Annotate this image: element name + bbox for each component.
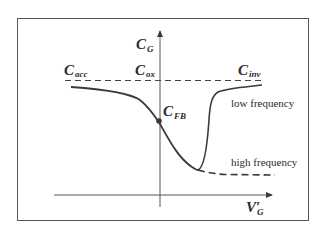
svg-text:G: G bbox=[147, 44, 154, 54]
svg-text:inv: inv bbox=[249, 69, 262, 79]
c-inv-label: C inv bbox=[238, 62, 262, 79]
cv-diagram: C G C acc C ox C inv C FB low frequency … bbox=[0, 0, 322, 231]
high-frequency-curve bbox=[198, 170, 275, 175]
figure-frame bbox=[18, 19, 309, 221]
svg-text:C: C bbox=[163, 103, 174, 119]
low-frequency-label: low frequency bbox=[231, 97, 295, 109]
cv-curve-common bbox=[71, 87, 198, 170]
svg-text:C: C bbox=[64, 62, 75, 78]
x-axis-label: V′ G bbox=[246, 199, 264, 217]
y-axis-label: C G bbox=[136, 36, 154, 54]
svg-text:G: G bbox=[257, 207, 264, 217]
svg-text:C: C bbox=[136, 36, 147, 52]
svg-text:FB: FB bbox=[173, 111, 186, 121]
high-frequency-label: high frequency bbox=[231, 156, 298, 168]
c-acc-label: C acc bbox=[64, 62, 88, 79]
flatband-point bbox=[156, 118, 162, 124]
svg-text:ox: ox bbox=[146, 69, 156, 79]
c-fb-label: C FB bbox=[163, 103, 186, 121]
svg-text:acc: acc bbox=[75, 69, 88, 79]
c-ox-label: C ox bbox=[135, 62, 156, 79]
svg-text:C: C bbox=[135, 62, 146, 78]
svg-text:C: C bbox=[238, 62, 249, 78]
